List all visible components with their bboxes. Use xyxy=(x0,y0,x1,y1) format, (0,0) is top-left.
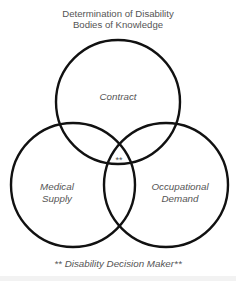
label-medical-line1: Medical xyxy=(22,181,92,193)
label-occupational-line2: Demand xyxy=(140,193,220,205)
bottom-divider xyxy=(0,276,236,281)
venn-diagram xyxy=(0,0,236,281)
label-medical-line2: Supply xyxy=(22,193,92,205)
label-occupational-line1: Occupational xyxy=(140,181,220,193)
label-contract: Contract xyxy=(88,91,148,103)
footnote: ** Disability Decision Maker** xyxy=(0,258,236,269)
center-marker: ** xyxy=(108,155,130,167)
